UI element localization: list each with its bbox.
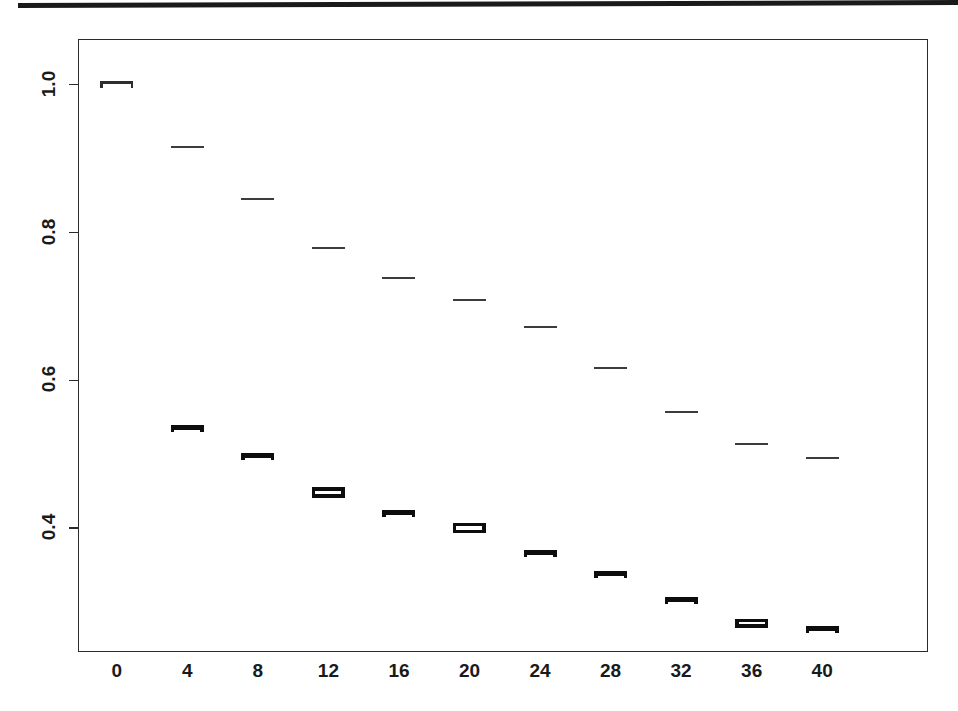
x-axis-tick-label: 4	[157, 660, 217, 682]
data-point-marker	[806, 454, 839, 462]
marker-bar	[453, 299, 486, 301]
y-axis-tick	[69, 527, 78, 528]
marker-bar	[735, 443, 768, 445]
y-axis-tick-label: 0.4	[0, 516, 62, 538]
marker-bar	[241, 198, 274, 200]
marker-top-bar	[171, 425, 204, 430]
plot-data-area	[78, 39, 928, 652]
data-point-marker	[735, 619, 768, 628]
marker-bot-bar	[312, 494, 345, 498]
y-axis-tick-label-text: 0.8	[38, 218, 60, 244]
data-point-marker	[806, 626, 839, 633]
marker-bar	[171, 146, 204, 148]
data-point-marker	[524, 323, 557, 331]
data-point-marker	[171, 143, 204, 151]
data-point-marker	[100, 81, 133, 88]
marker-bar	[312, 247, 345, 249]
data-point-marker	[241, 453, 274, 460]
x-axis-tick-label: 12	[298, 660, 358, 682]
marker-bar	[594, 367, 627, 369]
y-axis-tick	[69, 232, 78, 233]
y-axis-tick	[69, 84, 78, 85]
x-axis-tick-label: 0	[87, 660, 147, 682]
data-point-marker	[241, 195, 274, 203]
data-point-marker	[382, 274, 415, 282]
marker-top-bar	[665, 597, 698, 602]
y-axis-tick-label-text: 0.4	[38, 514, 60, 540]
y-axis-tick-label: 0.8	[0, 221, 62, 243]
x-axis-tick-label: 36	[722, 660, 782, 682]
y-axis-tick-label: 0.6	[0, 368, 62, 390]
data-point-marker	[312, 487, 345, 497]
y-axis-tick-label-text: 1.0	[38, 71, 60, 97]
x-axis-tick-label: 32	[651, 660, 711, 682]
marker-top-bar	[241, 453, 274, 458]
marker-top-bar	[735, 619, 768, 623]
chart-figure: 1.00.80.60.4 0481216202428323640	[0, 0, 958, 711]
x-axis-tick-label: 40	[792, 660, 852, 682]
marker-bar	[665, 411, 698, 413]
data-point-marker	[171, 425, 204, 432]
x-axis-tick-label: 24	[510, 660, 570, 682]
data-point-marker	[453, 296, 486, 304]
y-axis-tick-label-text: 0.6	[38, 366, 60, 392]
marker-bar	[382, 277, 415, 279]
y-axis-tick-label: 1.0	[0, 73, 62, 95]
data-point-marker	[312, 244, 345, 252]
data-point-marker	[524, 550, 557, 557]
data-point-marker	[665, 408, 698, 416]
data-point-marker	[594, 364, 627, 372]
data-point-marker	[665, 597, 698, 604]
x-axis-tick-label: 8	[228, 660, 288, 682]
marker-bot-bar	[735, 624, 768, 628]
marker-top-bar	[806, 626, 839, 631]
marker-top-bar	[594, 571, 627, 576]
marker-top-bar	[453, 523, 486, 527]
data-point-marker	[382, 510, 415, 517]
marker-top-bar	[100, 81, 133, 84]
x-axis-tick-label: 28	[581, 660, 641, 682]
data-point-marker	[594, 571, 627, 578]
marker-bar	[524, 326, 557, 328]
marker-top-bar	[312, 487, 345, 491]
data-point-marker	[735, 440, 768, 448]
x-axis-tick-label: 20	[439, 660, 499, 682]
data-point-marker	[453, 523, 486, 533]
marker-top-bar	[382, 510, 415, 515]
marker-top-bar	[524, 550, 557, 555]
y-axis-tick	[69, 380, 78, 381]
x-axis-tick-label: 16	[369, 660, 429, 682]
marker-bar	[806, 457, 839, 459]
marker-bot-bar	[453, 530, 486, 534]
